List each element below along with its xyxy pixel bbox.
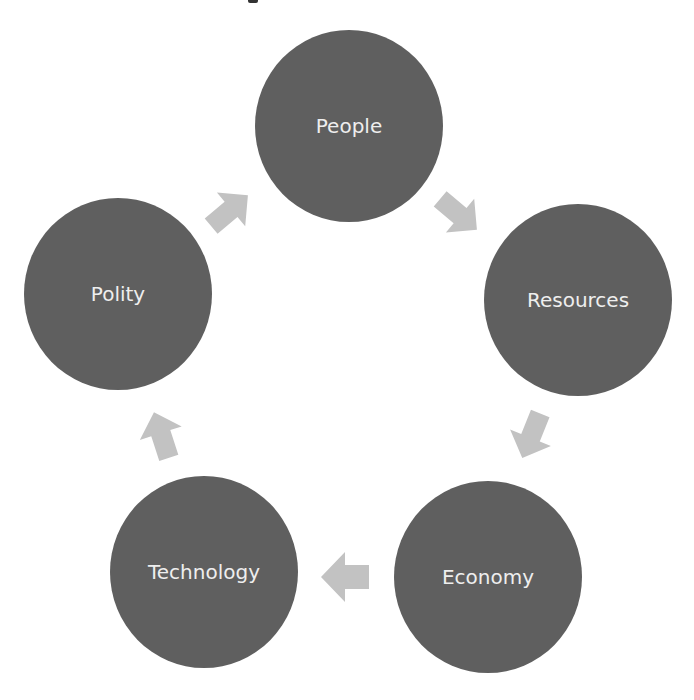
arrow-shape xyxy=(197,178,262,243)
arrow-people-to-resources-icon xyxy=(426,182,491,247)
cycle-diagram: People Resources Economy Technology Poli… xyxy=(0,0,694,700)
arrow-shape xyxy=(502,405,561,466)
arrow-shape xyxy=(321,552,369,602)
node-resources: Resources xyxy=(484,204,672,396)
node-people: People xyxy=(255,30,443,222)
arrow-polity-to-people-icon xyxy=(197,178,262,243)
arrow-shape xyxy=(133,405,190,464)
arrow-shape xyxy=(426,182,491,247)
arrow-economy-to-technology-icon xyxy=(321,552,369,602)
node-technology: Technology xyxy=(110,476,298,668)
node-label: Resources xyxy=(527,288,629,312)
arrow-resources-to-economy-icon xyxy=(502,405,561,466)
node-label: Technology xyxy=(148,560,260,584)
node-label: Polity xyxy=(91,282,145,306)
arrow-technology-to-polity-icon xyxy=(133,405,190,464)
node-label: Economy xyxy=(442,565,534,589)
node-economy: Economy xyxy=(394,481,582,673)
node-polity: Polity xyxy=(24,198,212,390)
node-label: People xyxy=(316,114,382,138)
